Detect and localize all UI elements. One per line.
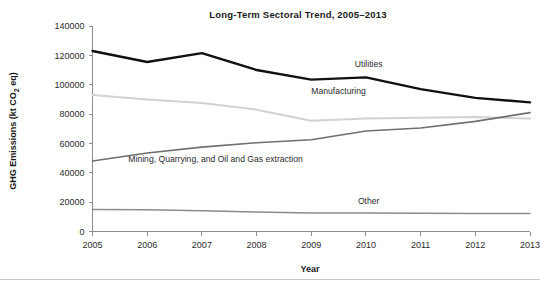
line-chart: Long-Term Sectoral Trend, 2005–2013 GHG … <box>0 0 540 283</box>
y-tick-label: 100000 <box>54 80 84 90</box>
y-tick-label: 0 <box>79 227 84 237</box>
series-label: Other <box>358 196 380 206</box>
x-tick-label: 2010 <box>356 240 376 250</box>
series-lines <box>93 51 531 214</box>
x-axis-ticks: 200520062007200820092010201120122013 <box>82 232 540 250</box>
y-tick-label: 80000 <box>59 109 84 119</box>
x-tick-label: 2007 <box>192 240 212 250</box>
series-label: Manufacturing <box>311 86 366 96</box>
x-tick-label: 2009 <box>301 240 321 250</box>
chart-title: Long-Term Sectoral Trend, 2005–2013 <box>209 9 386 20</box>
series-label: Utilities <box>355 59 383 69</box>
x-tick-label: 2011 <box>411 240 430 250</box>
y-axis-title: GHG Emissions (kt CO2 eq) <box>8 72 20 189</box>
y-axis-title-tail: eq) <box>8 72 18 88</box>
x-tick-label: 2008 <box>247 240 267 250</box>
series-line <box>93 95 531 121</box>
x-tick-label: 2013 <box>520 240 540 250</box>
x-axis-title: Year <box>300 264 320 274</box>
y-tick-label: 20000 <box>59 197 84 207</box>
chart-figure: Long-Term Sectoral Trend, 2005–2013 GHG … <box>0 0 540 283</box>
series-label: Mining, Quarrying, and Oil and Gas extra… <box>128 154 303 164</box>
x-tick-label: 2012 <box>465 240 485 250</box>
series-labels: UtilitiesManufacturingMining, Quarrying,… <box>128 59 382 206</box>
y-tick-label: 140000 <box>54 21 84 31</box>
y-tick-label: 40000 <box>59 168 84 178</box>
svg-text:GHG Emissions (kt CO2 eq): GHG Emissions (kt CO2 eq) <box>8 72 20 189</box>
y-axis-ticks: 020000400006000080000100000120000140000 <box>54 21 92 237</box>
y-tick-label: 60000 <box>59 139 84 149</box>
y-tick-label: 120000 <box>54 51 84 61</box>
y-axis-title-main: GHG Emissions (kt CO <box>8 92 18 190</box>
series-line <box>93 209 531 213</box>
x-tick-label: 2006 <box>137 240 157 250</box>
x-tick-label: 2005 <box>82 240 102 250</box>
